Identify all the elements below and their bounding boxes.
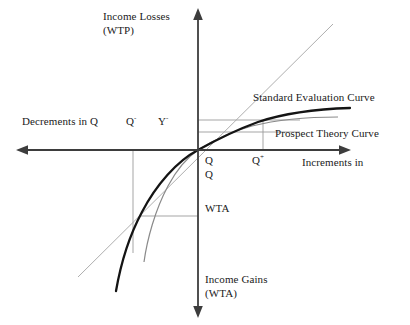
marker-q-minus-base: Q	[126, 115, 134, 127]
marker-q-plus-base: Q	[252, 154, 260, 166]
arrow-up-icon	[193, 8, 203, 20]
marker-q-upper: Q	[205, 154, 213, 167]
y-axis-bottom-label-line2: (WTA)	[205, 287, 237, 300]
x-axis-right-label: Increments in	[302, 156, 363, 169]
arrow-left-icon	[16, 145, 28, 155]
marker-q-plus: Q+	[252, 154, 264, 167]
arrow-down-icon	[193, 306, 203, 318]
marker-y-minus-base: Y	[158, 115, 166, 127]
marker-y-minus: Y-	[158, 115, 168, 128]
marker-q-lower: Q	[205, 168, 213, 181]
marker-q-plus-sign: +	[260, 153, 264, 161]
y-axis-bottom-label-line1: Income Gains	[205, 273, 268, 286]
x-axis-left-label: Decrements in Q	[22, 115, 98, 128]
marker-q-minus-sign: -	[134, 114, 136, 122]
curve-label-standard-evaluation: Standard Evaluation Curve	[253, 91, 375, 104]
marker-y-minus-sign: -	[166, 114, 168, 122]
arrow-right-icon	[339, 145, 351, 155]
curve-label-prospect-theory: Prospect Theory Curve	[275, 127, 379, 140]
marker-q-minus: Q-	[126, 115, 136, 128]
marker-wta: WTA	[205, 202, 229, 215]
y-axis-top-label-line2: (WTP)	[103, 24, 134, 37]
y-axis-top-label-line1: Income Losses	[103, 10, 170, 23]
diagram-canvas: Income Losses (WTP) Decrements in Q Q- Y…	[0, 0, 410, 325]
